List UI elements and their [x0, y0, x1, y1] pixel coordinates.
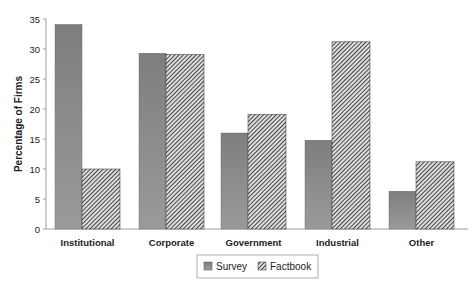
- bar-survey: [139, 53, 166, 229]
- y-tick-label: 10: [29, 164, 40, 175]
- legend-label-factbook: Factbook: [270, 261, 312, 272]
- x-tick-label: Other: [409, 237, 435, 248]
- bars: [55, 24, 454, 229]
- bar-survey: [55, 24, 82, 229]
- bar-factbook: [248, 114, 286, 229]
- y-tick-label: 20: [29, 104, 40, 115]
- y-tick-label: 15: [29, 134, 40, 145]
- bar-factbook: [416, 162, 454, 229]
- x-tick-label: Corporate: [149, 237, 194, 248]
- y-axis-label: Percentage of Firms: [13, 75, 24, 172]
- bar-factbook: [82, 169, 120, 229]
- y-tick-label: 25: [29, 74, 40, 85]
- y-tick-label: 30: [29, 44, 40, 55]
- bar-survey: [389, 191, 416, 229]
- bar-chart: 05101520253035 InstitutionalCorporateGov…: [0, 0, 476, 296]
- y-tick-label: 0: [35, 224, 40, 235]
- x-tick-label: Government: [226, 237, 283, 248]
- bar-factbook: [166, 54, 204, 229]
- legend: Survey Factbook: [197, 255, 318, 278]
- x-tick-label: Industrial: [316, 237, 359, 248]
- legend-swatch-survey: [204, 262, 212, 270]
- bar-factbook: [332, 42, 370, 229]
- x-tick-label: Institutional: [61, 237, 115, 248]
- x-axis-labels: InstitutionalCorporateGovernmentIndustri…: [61, 237, 435, 248]
- bar-survey: [221, 133, 248, 229]
- y-tick-label: 35: [29, 14, 40, 25]
- y-tick-label: 5: [35, 194, 40, 205]
- legend-swatch-factbook: [258, 262, 266, 270]
- legend-label-survey: Survey: [216, 261, 247, 272]
- bar-survey: [305, 140, 332, 229]
